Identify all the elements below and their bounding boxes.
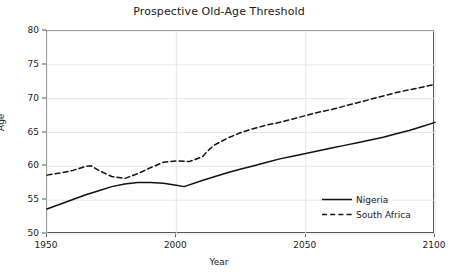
y-tick-label: 80 bbox=[13, 25, 39, 35]
y-tick-label: 65 bbox=[13, 127, 39, 137]
x-axis-label: Year bbox=[0, 257, 438, 267]
x-tick-label: 2000 bbox=[155, 240, 195, 250]
y-tick-label: 70 bbox=[13, 93, 39, 103]
legend-item-label: South Africa bbox=[356, 210, 411, 220]
chart-title: Prospective Old-Age Threshold bbox=[0, 5, 438, 18]
legend-line-swatch bbox=[322, 210, 352, 219]
chart-legend: NigeriaSouth Africa bbox=[322, 192, 411, 222]
y-tick-label: 75 bbox=[13, 59, 39, 69]
x-tick-label: 2050 bbox=[285, 240, 325, 250]
x-tick-label: 2100 bbox=[414, 240, 450, 250]
y-tick-label: 50 bbox=[13, 228, 39, 238]
legend-item-nigeria[interactable]: Nigeria bbox=[322, 192, 411, 207]
y-axis-label: Age bbox=[0, 114, 6, 131]
x-tick-label: 1950 bbox=[26, 240, 66, 250]
legend-line-swatch bbox=[322, 195, 352, 204]
legend-item-south-africa[interactable]: South Africa bbox=[322, 207, 411, 222]
y-tick-label: 60 bbox=[13, 160, 39, 170]
legend-item-label: Nigeria bbox=[356, 195, 388, 205]
series-line-south-africa bbox=[47, 84, 435, 178]
y-tick-label: 55 bbox=[13, 194, 39, 204]
